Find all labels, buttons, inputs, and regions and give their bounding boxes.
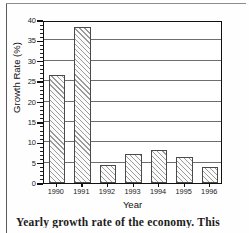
y-tick-minor [40,25,44,26]
scanned-page: Growth Rate (%) 051015202530354019901991… [0,0,249,233]
y-tick-minor [40,94,44,95]
y-tick-minor [40,86,44,87]
y-tick-minor [40,57,44,58]
y-tick-minor [40,73,44,74]
y-tick-major [37,122,43,123]
y-tick-major [37,20,43,21]
bar-1992 [100,165,116,183]
y-tick-minor [40,118,44,119]
y-tick-minor [40,110,44,111]
gridline [44,39,221,40]
bar-1993 [125,154,141,183]
y-tick-minor [40,98,44,99]
x-tick-label: 1996 [196,188,222,195]
y-tick-minor [40,175,44,176]
y-tick-minor [40,45,44,46]
y-tick-minor [40,179,44,180]
x-tick-label: 1994 [145,188,171,195]
gridline [44,121,221,122]
y-tick-minor [40,78,44,79]
y-tick-label: 20 [16,99,36,107]
y-tick-minor [40,151,44,152]
y-tick-label: 30 [16,58,36,66]
y-tick-minor [40,147,44,148]
y-tick-major [37,102,43,103]
y-tick-label: 35 [16,37,36,45]
y-tick-label: 15 [16,119,36,127]
y-tick-minor [40,33,44,34]
y-tick-minor [40,53,44,54]
x-axis-title: Year [43,199,222,210]
y-tick-minor [40,90,44,91]
y-tick-minor [40,37,44,38]
y-tick-minor [40,65,44,66]
x-tick-label: 1990 [43,188,69,195]
bar-1995 [176,157,192,183]
y-tick-label: 10 [16,139,36,147]
y-tick-major [37,143,43,144]
y-tick-label: 40 [16,17,36,25]
y-tick-minor [40,167,44,168]
x-tick-label: 1993 [120,188,146,195]
y-tick-label: 0 [16,180,36,188]
plot-area [43,21,222,184]
figure-caption: Yearly growth rate of the economy. This [16,216,240,228]
y-tick-minor [40,126,44,127]
y-tick-minor [40,131,44,132]
y-tick-minor [40,155,44,156]
y-tick-major [37,61,43,62]
gridline [44,60,221,61]
gridline [44,101,221,102]
bar-1990 [49,75,65,183]
y-tick-minor [40,135,44,136]
y-tick-minor [40,171,44,172]
plot-inner [44,22,221,183]
x-tick-label: 1992 [94,188,120,195]
gridline [44,80,221,81]
y-tick-label: 5 [16,160,36,168]
bar-1996 [202,167,218,183]
x-tick-label: 1995 [171,188,197,195]
x-tick-label: 1991 [68,188,94,195]
bar-1994 [151,150,167,183]
y-tick-label: 25 [16,78,36,86]
y-tick-major [37,183,43,184]
y-tick-major [37,81,43,82]
bar-chart-figure: Growth Rate (%) 051015202530354019901991… [0,0,249,212]
y-tick-minor [40,69,44,70]
y-tick-minor [40,114,44,115]
y-tick-minor [40,49,44,50]
gridline [44,141,221,142]
y-tick-minor [40,139,44,140]
y-tick-minor [40,106,44,107]
y-tick-minor [40,159,44,160]
y-tick-major [37,41,43,42]
bar-1991 [74,27,90,183]
y-tick-major [37,163,43,164]
y-tick-minor [40,29,44,30]
